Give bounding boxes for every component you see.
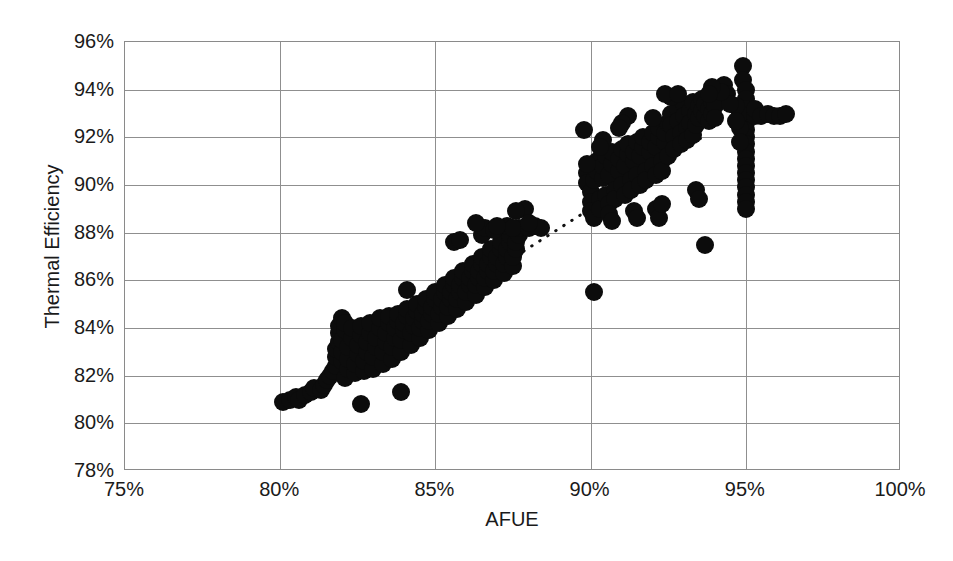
x-axis-title: AFUE xyxy=(124,508,900,531)
data-point xyxy=(585,283,603,301)
x-tick-label: 85% xyxy=(414,478,454,501)
data-point xyxy=(352,395,370,413)
data-point xyxy=(488,217,506,235)
data-points-layer xyxy=(125,42,899,469)
data-point xyxy=(644,109,662,127)
data-point xyxy=(727,112,745,130)
data-point xyxy=(610,119,628,137)
data-point xyxy=(628,209,646,227)
data-point xyxy=(451,231,469,249)
x-tick-label: 100% xyxy=(874,478,925,501)
data-point xyxy=(690,190,708,208)
y-tick-label: 82% xyxy=(74,363,114,386)
data-point xyxy=(777,105,795,123)
x-tick-label: 80% xyxy=(259,478,299,501)
data-point xyxy=(575,121,593,139)
plot-area xyxy=(124,41,900,470)
data-point xyxy=(578,155,596,173)
y-tick-label: 88% xyxy=(74,220,114,243)
y-axis-title: Thermal Efficiency xyxy=(41,117,64,377)
y-tick-label: 92% xyxy=(74,125,114,148)
data-point xyxy=(653,195,671,213)
data-point xyxy=(669,85,687,103)
data-point xyxy=(700,85,718,103)
y-tick-label: 90% xyxy=(74,173,114,196)
x-tick-label: 75% xyxy=(104,478,144,501)
data-point xyxy=(467,214,485,232)
data-point xyxy=(398,281,416,299)
x-tick-label: 95% xyxy=(725,478,765,501)
y-tick-label: 94% xyxy=(74,77,114,100)
data-point xyxy=(591,138,609,156)
x-tick-label: 90% xyxy=(570,478,610,501)
y-tick-label: 84% xyxy=(74,316,114,339)
y-tick-label: 80% xyxy=(74,411,114,434)
data-point xyxy=(520,214,538,232)
data-point xyxy=(737,200,755,218)
y-tick-label: 96% xyxy=(74,30,114,53)
scatter-chart: 78%80%82%84%86%88%90%92%94%96% 75%80%85%… xyxy=(0,0,953,561)
data-point xyxy=(696,236,714,254)
data-point xyxy=(392,383,410,401)
data-point xyxy=(603,212,621,230)
data-point xyxy=(731,133,749,151)
y-tick-label: 86% xyxy=(74,268,114,291)
data-point xyxy=(706,109,724,127)
x-axis-tick-labels: 75%80%85%90%95%100% xyxy=(124,478,900,506)
